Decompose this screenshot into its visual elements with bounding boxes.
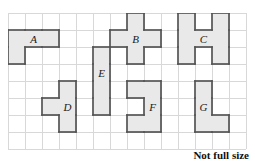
grid-line-vertical <box>246 13 247 149</box>
shape-labels: ABCDEFG <box>8 13 246 149</box>
shape-label-c: C <box>200 33 207 44</box>
shape-label-f: F <box>149 101 156 112</box>
polyomino-shapes-figure: ABCDEFG Not full size <box>0 0 255 163</box>
shape-label-a: A <box>30 33 37 44</box>
shape-label-b: B <box>132 33 139 44</box>
shape-label-g: G <box>200 101 208 112</box>
shape-label-e: E <box>98 67 105 78</box>
figure-caption: Not full size <box>193 149 249 161</box>
shape-label-d: D <box>64 101 72 112</box>
grid-board: ABCDEFG <box>8 13 246 149</box>
